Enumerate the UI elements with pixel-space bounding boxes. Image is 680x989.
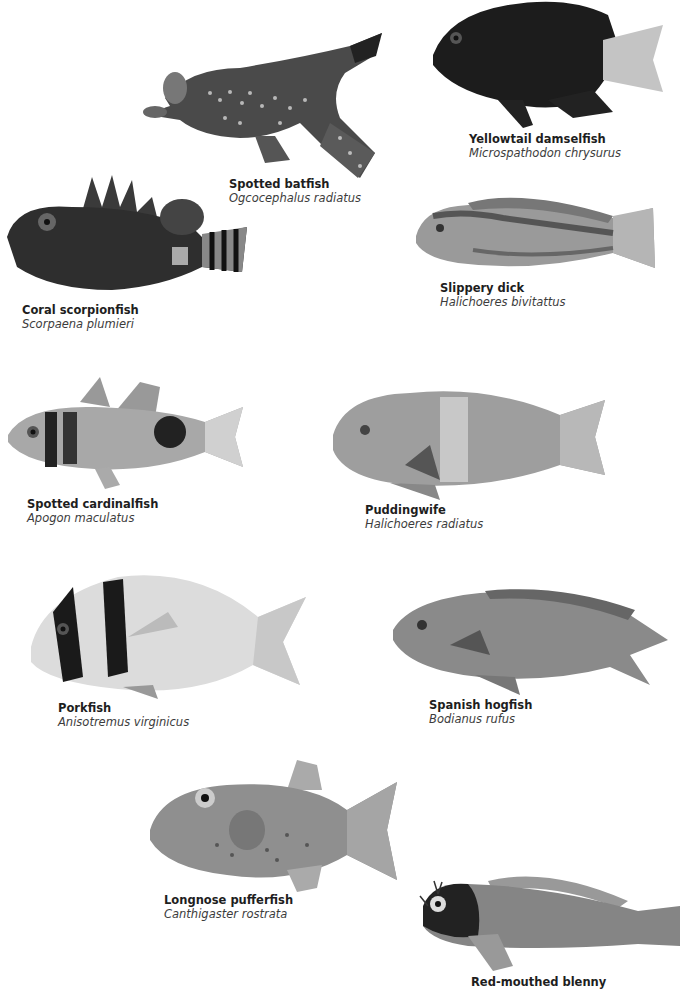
yellowtail-damselfish-illustration bbox=[428, 0, 666, 130]
common-name: Puddingwife bbox=[365, 503, 483, 517]
common-name: Red-mouthed blenny bbox=[471, 975, 606, 989]
species-label-porkfish: Porkfish Anisotremus virginicus bbox=[58, 701, 189, 730]
species-label-cardinalfish: Spotted cardinalfish Apogon maculatus bbox=[27, 497, 158, 526]
puddingwife-illustration bbox=[330, 385, 608, 503]
scientific-name: Halichoeres radiatus bbox=[365, 517, 483, 531]
spotted-cardinalfish-illustration bbox=[5, 377, 245, 492]
species-label-damselfish: Yellowtail damselfish Microspathodon chr… bbox=[469, 132, 621, 161]
scientific-name: Microspathodon chrysurus bbox=[469, 146, 621, 160]
species-label-hogfish: Spanish hogfish Bodianus rufus bbox=[429, 698, 532, 727]
coral-scorpionfish-illustration bbox=[2, 172, 250, 302]
scientific-name: Apogon maculatus bbox=[27, 511, 158, 525]
scientific-name: Scorpaena plumieri bbox=[22, 317, 139, 331]
species-label-slippery-dick: Slippery dick Halichoeres bivitattus bbox=[440, 281, 566, 310]
common-name: Porkfish bbox=[58, 701, 189, 715]
common-name: Yellowtail damselfish bbox=[469, 132, 621, 146]
species-label-puddingwife: Puddingwife Halichoeres radiatus bbox=[365, 503, 483, 532]
scientific-name: Halichoeres bivitattus bbox=[440, 295, 566, 309]
common-name: Spanish hogfish bbox=[429, 698, 532, 712]
spanish-hogfish-illustration bbox=[390, 585, 670, 697]
scientific-name: Bodianus rufus bbox=[429, 712, 532, 726]
red-mouthed-blenny-illustration bbox=[418, 866, 680, 976]
common-name: Coral scorpionfish bbox=[22, 303, 139, 317]
slippery-dick-illustration bbox=[413, 188, 658, 278]
species-label-blenny: Red-mouthed blenny bbox=[471, 975, 606, 989]
species-label-scorpionfish: Coral scorpionfish Scorpaena plumieri bbox=[22, 303, 139, 332]
common-name: Longnose pufferfish bbox=[164, 893, 293, 907]
scientific-name: Anisotremus virginicus bbox=[58, 715, 189, 729]
scientific-name: Canthigaster rostrata bbox=[164, 907, 293, 921]
porkfish-illustration bbox=[28, 567, 308, 702]
spotted-batfish-illustration bbox=[150, 28, 385, 183]
common-name: Spotted cardinalfish bbox=[27, 497, 158, 511]
common-name: Slippery dick bbox=[440, 281, 566, 295]
longnose-pufferfish-illustration bbox=[147, 760, 399, 895]
species-label-pufferfish: Longnose pufferfish Canthigaster rostrat… bbox=[164, 893, 293, 922]
